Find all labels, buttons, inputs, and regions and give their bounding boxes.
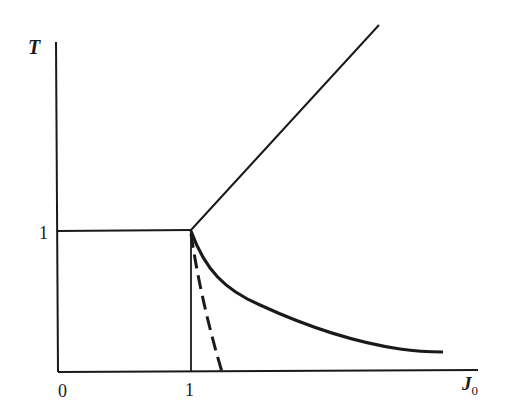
y-axis [56, 42, 58, 372]
x-axis-label-subscript: 0 [472, 383, 479, 398]
x-axis-label-main: J [461, 373, 472, 394]
x-axis [58, 370, 478, 372]
x-axis-label: J0 [461, 373, 478, 398]
diagonal-line [191, 25, 379, 230]
horizontal-line [57, 230, 191, 231]
origin-label: 0 [58, 381, 67, 401]
solid-decaying-curve [191, 231, 443, 352]
x-tick-label: 1 [185, 380, 194, 400]
y-tick-label: 1 [39, 223, 48, 243]
y-axis-label: T [28, 36, 41, 58]
phase-diagram: T 1 0 1 J0 [0, 0, 511, 416]
dashed-curve [191, 234, 222, 372]
